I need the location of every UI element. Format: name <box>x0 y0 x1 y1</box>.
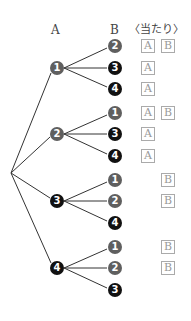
node-b-1-3: 3 <box>108 61 122 75</box>
win-box-a: A <box>141 61 155 75</box>
node-b-2-4: 4 <box>108 149 122 163</box>
node-b-3-1: 1 <box>108 173 122 187</box>
win-box-a: A <box>141 39 155 53</box>
column-header-b: B <box>110 23 119 37</box>
node-a-1: 1 <box>50 61 64 75</box>
node-b-3-4: 4 <box>108 216 122 230</box>
column-header-a: A <box>51 23 60 37</box>
node-b-4-2: 2 <box>108 261 122 275</box>
win-box-a: A <box>141 106 155 120</box>
win-box-b: B <box>161 173 175 187</box>
win-box-b: B <box>161 240 175 254</box>
win-box-b: B <box>161 194 175 208</box>
node-b-3-2: 2 <box>108 194 122 208</box>
node-b-1-4: 4 <box>108 82 122 96</box>
node-b-2-3: 3 <box>108 127 122 141</box>
node-b-4-1: 1 <box>108 240 122 254</box>
node-a-2: 2 <box>50 127 64 141</box>
node-b-1-2: 2 <box>108 39 122 53</box>
win-box-b: B <box>161 261 175 275</box>
win-box-a: A <box>141 82 155 96</box>
win-box-b: B <box>161 106 175 120</box>
column-header-win: 〈当たり〉 <box>129 23 184 37</box>
win-box-a: A <box>141 149 155 163</box>
node-a-4: 4 <box>50 261 64 275</box>
node-b-4-3: 3 <box>108 283 122 297</box>
node-a-3: 3 <box>50 194 64 208</box>
win-box-a: A <box>141 127 155 141</box>
node-b-2-1: 1 <box>108 106 122 120</box>
win-box-b: B <box>161 39 175 53</box>
